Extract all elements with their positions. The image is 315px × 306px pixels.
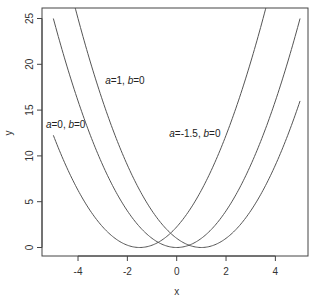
y-tick-label: 20 [24,58,35,70]
chart: -4-2024 0510152025 x y a=0, b=0a=1, b=0a… [0,0,315,306]
curve-annotation: a=0, b=0 [46,119,86,130]
curves [53,0,300,248]
y-tick-label: 0 [24,244,35,250]
y-axis-title: y [3,131,14,136]
x-tick-label: 4 [273,266,279,277]
y-tick-label: 5 [24,198,35,204]
y-tick-label: 15 [24,104,35,116]
x-tick-label: -4 [74,266,83,277]
y-tick-label: 25 [24,13,35,25]
x-tick-label: 0 [174,266,180,277]
curve-annotation: a=-1.5, b=0 [169,128,221,139]
curve-annotation: a=1, b=0 [105,75,145,86]
curve-line [53,0,300,248]
x-axis-title: x [174,286,179,297]
x-tick-label: 2 [223,266,229,277]
x-tick-label: -2 [123,266,132,277]
y-axis: 0510152025 [24,13,42,251]
x-axis: -4-2024 [74,256,279,277]
y-tick-label: 10 [24,150,35,162]
